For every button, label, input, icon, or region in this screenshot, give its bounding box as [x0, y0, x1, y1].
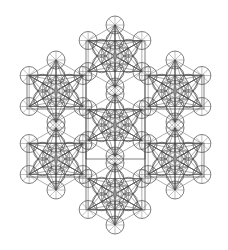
- geometric-figure: [0, 0, 228, 250]
- metatron-pattern-svg: [0, 0, 228, 250]
